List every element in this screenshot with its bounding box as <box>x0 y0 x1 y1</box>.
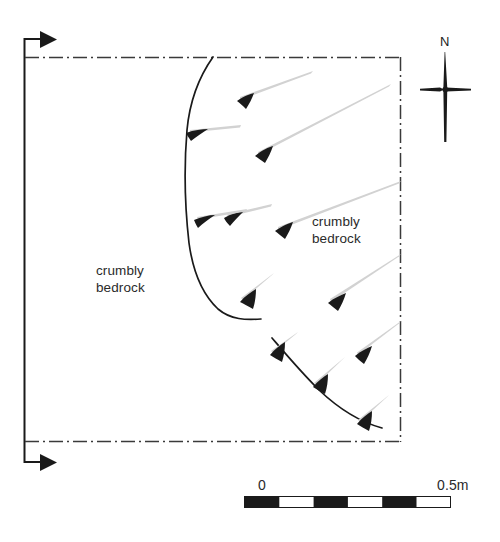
excavation-boundary-group <box>25 57 401 442</box>
slope-arrow <box>186 125 241 141</box>
slope-arrow <box>328 254 401 311</box>
label-crumbly-bedrock-left: crumbly bedrock <box>96 263 145 296</box>
slope-arrow <box>224 204 272 226</box>
north-label: N <box>440 34 450 51</box>
scale-bar-group <box>245 497 451 508</box>
slope-arrow <box>240 273 274 309</box>
scale-bar-start-label: 0 <box>258 477 266 494</box>
slope-arrows-group <box>186 71 401 431</box>
scale-bar-segment-filled <box>382 497 416 507</box>
baseline-bottom-arrowhead <box>40 454 57 471</box>
slope-arrow <box>313 357 345 394</box>
baseline-axis-group <box>24 31 57 471</box>
slope-arrow <box>194 209 247 228</box>
scale-bar-segment-filled <box>314 497 348 507</box>
scale-bar-segment-filled <box>245 497 279 507</box>
slope-arrow <box>237 71 313 109</box>
north-arrow-group <box>420 52 471 142</box>
slope-arrow <box>270 332 298 362</box>
scale-bar-end-label: 0.5m <box>437 477 469 494</box>
plan-drawing-canvas <box>0 0 500 542</box>
slope-arrow <box>255 84 391 163</box>
slope-arrow <box>355 321 401 364</box>
north-arrow-horizontal <box>420 88 471 92</box>
archaeological-plan-figure: crumbly bedrock crumbly bedrock N 0 0.5m <box>0 0 500 542</box>
label-crumbly-bedrock-right: crumbly bedrock <box>312 214 361 247</box>
north-arrow-vertical <box>442 52 449 142</box>
baseline-top-arrowhead <box>40 31 57 48</box>
